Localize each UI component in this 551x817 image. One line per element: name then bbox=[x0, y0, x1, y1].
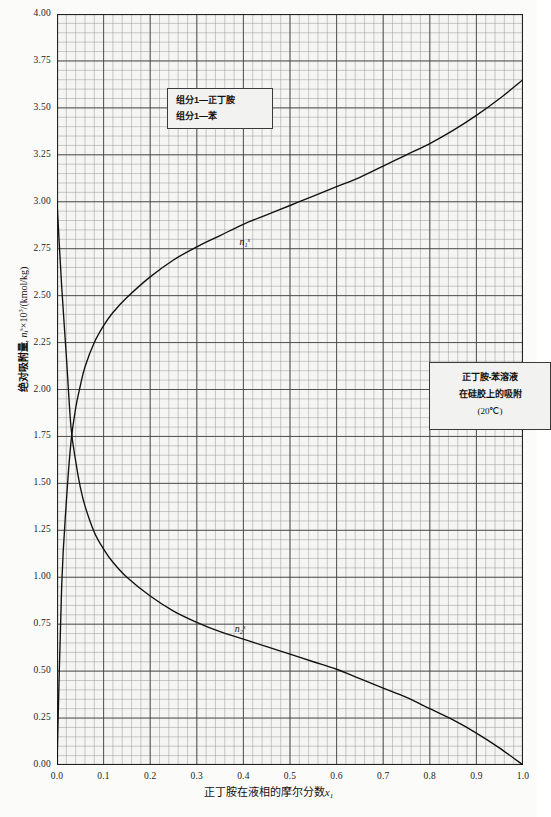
y-tick-label: 4.00 bbox=[5, 8, 51, 18]
curve-label-n2s: n2s bbox=[235, 623, 246, 635]
annotation-box: 正丁胺-苯溶液 在硅胶上的吸附 (20℃) bbox=[429, 362, 551, 430]
y-tick-label: 3.00 bbox=[5, 196, 51, 206]
y-axis-symbol-sup: s bbox=[17, 328, 24, 331]
y-tick-label: 3.25 bbox=[5, 149, 51, 159]
x-tick-label: 0.7 bbox=[363, 771, 403, 781]
x-tick-label: 0.4 bbox=[223, 771, 263, 781]
y-tick-label: 2.00 bbox=[5, 384, 51, 394]
y-tick-label: 2.50 bbox=[5, 290, 51, 300]
y-tick-label: 0.25 bbox=[5, 712, 51, 722]
y-tick-label: 1.50 bbox=[5, 477, 51, 487]
x-tick-label: 0.6 bbox=[317, 771, 357, 781]
x-tick-label: 0.5 bbox=[270, 771, 310, 781]
y-axis-symbol-sub: i bbox=[22, 331, 29, 333]
y-tick-label: 3.50 bbox=[5, 102, 51, 112]
x-axis-label-cn: 正丁胺在液相的摩尔分数 bbox=[204, 786, 325, 798]
y-axis-unit-tail: /(kmol/kg) bbox=[18, 267, 29, 310]
x-tick-label: 0.0 bbox=[37, 771, 77, 781]
y-tick-label: 0.75 bbox=[5, 618, 51, 628]
y-tick-label: 1.75 bbox=[5, 430, 51, 440]
y-tick-label: 1.00 bbox=[5, 571, 51, 581]
y-tick-label: 3.75 bbox=[5, 55, 51, 65]
x-tick-label: 0.9 bbox=[456, 771, 496, 781]
annotation-line-2: 在硅胶上的吸附 bbox=[430, 386, 550, 403]
x-tick-label: 0.1 bbox=[84, 771, 124, 781]
annotation-line-3: (20℃) bbox=[430, 403, 550, 420]
y-axis-unit: ×10 bbox=[18, 313, 29, 329]
x-tick-label: 1.0 bbox=[503, 771, 543, 781]
legend-entry-1: 组分1—正丁胺 bbox=[176, 92, 268, 108]
y-tick-label: 2.75 bbox=[5, 243, 51, 253]
x-tick-label: 0.2 bbox=[130, 771, 170, 781]
legend-box: 组分1—正丁胺 组分1—苯 bbox=[167, 88, 273, 129]
x-axis-symbol-sub: 1 bbox=[330, 792, 334, 800]
x-tick-label: 0.3 bbox=[177, 771, 217, 781]
y-tick-label: 0.50 bbox=[5, 665, 51, 675]
x-tick-label: 0.8 bbox=[410, 771, 450, 781]
legend-entry-2: 组分1—苯 bbox=[176, 108, 268, 124]
plot-area: 组分1—正丁胺 组分1—苯 正丁胺-苯溶液 在硅胶上的吸附 (20℃) n1s … bbox=[57, 14, 523, 765]
x-axis-label: 正丁胺在液相的摩尔分数x1 bbox=[0, 783, 537, 800]
y-tick-label: 0.00 bbox=[5, 759, 51, 769]
y-tick-label: 2.25 bbox=[5, 337, 51, 347]
y-axis-unit-exp: 3 bbox=[17, 309, 24, 312]
y-tick-label: 1.25 bbox=[5, 524, 51, 534]
annotation-line-1: 正丁胺-苯溶液 bbox=[430, 369, 550, 386]
curve-label-n1s: n1s bbox=[239, 236, 250, 248]
